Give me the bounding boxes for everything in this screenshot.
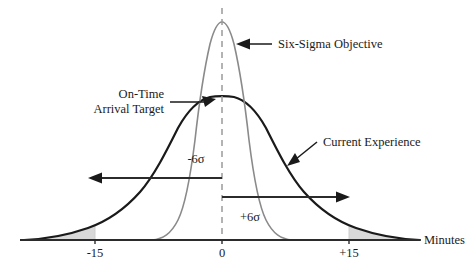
plus-six-sigma-range-arrow <box>222 192 350 203</box>
six-sigma-distribution-chart: Six-Sigma Objective On-Time Arrival Targ… <box>0 0 473 266</box>
chart-canvas: Six-Sigma Objective On-Time Arrival Targ… <box>0 0 473 266</box>
right-tail-shaded-region <box>349 225 420 240</box>
current-experience-callout-arrow <box>287 142 317 166</box>
left-tail-shaded-region <box>24 225 95 240</box>
x-tick-label-minus15: -15 <box>87 246 104 260</box>
six-sigma-objective-label: Six-Sigma Objective <box>278 37 383 51</box>
x-tick-label-plus15: +15 <box>339 246 359 260</box>
on-time-arrival-target-label-line2: Arrival Target <box>93 102 164 116</box>
minus-six-sigma-label: -6σ <box>187 152 204 166</box>
on-time-arrival-target-callout-arrow <box>170 96 216 107</box>
current-experience-label: Current Experience <box>323 135 421 149</box>
plus-six-sigma-label: +6σ <box>240 210 260 224</box>
on-time-arrival-target-label-line1: On-Time <box>119 87 165 101</box>
six-sigma-objective-callout-arrow <box>236 39 272 50</box>
x-axis-title: Minutes <box>424 233 465 247</box>
x-tick-label-zero: 0 <box>219 246 225 260</box>
minus-six-sigma-range-arrow <box>88 173 222 184</box>
